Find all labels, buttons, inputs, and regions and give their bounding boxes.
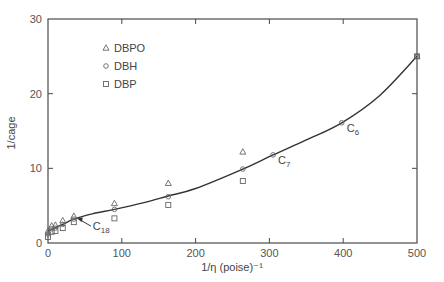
dbp-point [166,202,171,207]
legend-marker-dbp [104,82,109,87]
legend-marker-dbh [104,64,109,69]
annotations: C18C7C6 [77,122,360,235]
dbp-point [112,216,117,221]
dbpo-point [111,200,117,205]
annotation-subscript: 18 [101,226,110,235]
x-axis-label: 1/η (poise)⁻¹ [201,261,263,273]
annotation-subscript: 6 [355,128,360,137]
plot-frame [48,19,417,243]
x-tick-label: 0 [45,247,51,259]
y-tick-label: 10 [30,162,42,174]
dbp-point [240,179,245,184]
x-tick-label: 500 [408,247,426,259]
y-tick-label: 0 [36,237,42,249]
annotation-main: C [347,122,355,134]
x-tick-label: 100 [113,247,131,259]
annotation-subscript: 7 [286,160,291,169]
annotation-c18: C18 [93,220,110,235]
dbpo-point [240,149,246,154]
legend-label-dbp: DBP [114,78,137,90]
y-axis-label: 1/cage [5,116,17,149]
x-tick-label: 200 [186,247,204,259]
annotation-main: C [93,220,101,232]
x-tick-label: 300 [260,247,278,259]
dbpo-point [165,180,171,185]
ticks: 01002003004005000102030 [30,13,426,259]
y-tick-label: 30 [30,13,42,25]
legend: DBPODBHDBP [103,42,146,90]
legend-label-dbh: DBH [114,60,137,72]
annotation-main: C [278,154,286,166]
axes [48,19,417,243]
annotation-c7: C7 [278,154,291,169]
legend-marker-dbpo [103,45,109,50]
x-tick-label: 400 [334,247,352,259]
chart: 01002003004005000102030 C18C7C6 DBPODBHD… [0,0,444,282]
legend-label-dbpo: DBPO [114,42,146,54]
y-tick-label: 20 [30,88,42,100]
annotation-c6: C6 [347,122,360,137]
